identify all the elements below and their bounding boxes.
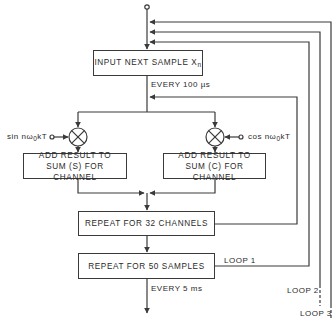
input-sample-label: INPUT NEXT SAMPLE X: [94, 58, 197, 67]
start-terminal-icon: [145, 5, 149, 9]
add-sum-s-box: ADD RESULT TO SUM (S) FOR CHANNEL: [23, 153, 127, 179]
add-sum-c-line1: ADD RESULT TO: [178, 150, 250, 161]
add-sum-s-line1: ADD RESULT TO: [39, 150, 111, 161]
multiplier-left-icon: [69, 128, 87, 146]
repeat-samples-box: REPEAT FOR 50 SAMPLES: [78, 253, 215, 279]
every-100us-label: EVERY 100 µs: [151, 80, 210, 89]
cos-input-label: cos nω0kT: [248, 132, 290, 142]
add-sum-c-box: ADD RESULT TO SUM (C) FOR CHANNEL: [163, 153, 266, 179]
add-sum-c-line2: SUM (C) FOR CHANNEL: [164, 161, 265, 183]
repeat-channels-label: REPEAT FOR 32 CHANNELS: [85, 218, 208, 229]
repeat-channels-box: REPEAT FOR 32 CHANNELS: [78, 211, 215, 236]
loop2-label: LOOP 2: [287, 286, 319, 295]
loop3-label: LOOP 3: [300, 309, 332, 318]
repeat-samples-label: REPEAT FOR 50 SAMPLES: [88, 261, 205, 272]
every-5ms-label: EVERY 5 ms: [151, 284, 202, 293]
subscript-n: n: [197, 61, 201, 68]
add-sum-s-line2: SUM (S) FOR CHANNEL: [24, 161, 126, 183]
multiplier-right-icon: [206, 128, 224, 146]
loop1-label: LOOP 1: [224, 256, 256, 265]
input-sample-box: INPUT NEXT SAMPLE Xn: [93, 50, 203, 76]
sin-input-label: sin nω0kT: [7, 132, 47, 142]
